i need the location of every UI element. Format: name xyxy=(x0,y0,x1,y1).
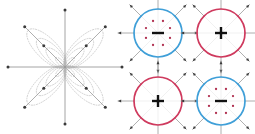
origin-cluster-dot xyxy=(67,64,68,65)
diagram-canvas xyxy=(0,0,255,134)
circle-bottom-right xyxy=(181,61,255,134)
origin-cluster-dot xyxy=(64,70,65,71)
inner-dot xyxy=(169,37,171,39)
inner-dot xyxy=(215,88,217,90)
origin-cluster-dot xyxy=(67,69,68,70)
axis-endpoint-marker xyxy=(64,123,67,126)
inner-dot xyxy=(152,20,154,22)
origin-cluster-dot xyxy=(70,66,71,67)
origin-cluster-dot xyxy=(58,73,59,74)
inner-dot xyxy=(145,27,147,29)
inner-dot xyxy=(225,112,227,114)
origin-cluster-dot xyxy=(61,66,62,67)
inner-dot xyxy=(215,112,217,114)
origin-cluster-dot xyxy=(57,66,58,67)
origin-cluster-dot xyxy=(68,70,69,71)
origin-cluster-dot xyxy=(64,57,65,58)
origin-cluster-dot xyxy=(64,63,65,64)
inner-dot xyxy=(162,20,164,22)
axis-endpoint-marker xyxy=(7,66,10,69)
spoke-arrowhead xyxy=(220,61,223,64)
origin-cluster-dot xyxy=(74,66,75,67)
inner-dot xyxy=(208,95,210,97)
origin-cluster-dot xyxy=(55,66,56,67)
axis-group xyxy=(7,9,124,126)
origin-cluster-dot xyxy=(59,61,60,62)
origin-cluster-dot xyxy=(70,72,71,73)
spoke-arrowhead xyxy=(157,61,160,64)
inner-dot xyxy=(208,105,210,107)
origin-cluster-dot xyxy=(71,60,72,61)
inner-dot xyxy=(225,88,227,90)
origin-cluster-dot xyxy=(66,66,67,67)
origin-cluster-dot xyxy=(66,65,67,66)
diagram-svg xyxy=(0,0,255,134)
inner-dot xyxy=(232,95,234,97)
inner-dot xyxy=(152,44,154,46)
axis-endpoint-marker xyxy=(121,66,124,69)
origin-cluster-dot xyxy=(64,61,65,62)
lobe-marker xyxy=(85,87,88,90)
axis-endpoint-marker xyxy=(104,106,107,109)
axis-endpoint-marker xyxy=(104,25,107,28)
origin-cluster-dot xyxy=(60,70,61,71)
spoke-arrowhead xyxy=(118,32,121,35)
origin-cluster-dot xyxy=(66,68,67,69)
origin-cluster-dot xyxy=(64,59,65,60)
origin-cluster-dot xyxy=(63,68,64,69)
lobe-marker xyxy=(85,44,88,47)
lobe-marker xyxy=(42,87,45,90)
axis-endpoint-marker xyxy=(23,25,26,28)
origin-cluster-dot xyxy=(64,74,65,75)
origin-cluster-dot xyxy=(58,60,59,61)
origin-cluster-dot xyxy=(64,65,65,66)
axis-endpoint-marker xyxy=(64,9,67,12)
lobe-marker xyxy=(42,44,45,47)
origin-cluster-dot xyxy=(60,62,61,63)
rose-panel xyxy=(7,9,124,126)
origin-cluster-dot xyxy=(68,62,69,63)
origin-cluster-dot xyxy=(59,72,60,73)
origin-cluster-dot xyxy=(70,61,71,62)
origin-cluster-dot xyxy=(72,66,73,67)
circle-bottom-left xyxy=(118,61,198,134)
origin-cluster-dot xyxy=(62,64,63,65)
circle-top-right xyxy=(181,0,255,73)
axis-endpoint-marker xyxy=(23,106,26,109)
origin-cluster-dot xyxy=(64,68,65,69)
origin-cluster-dot xyxy=(62,69,63,70)
origin-cluster-dot xyxy=(71,73,72,74)
inner-dot xyxy=(145,37,147,39)
origin-cluster-dot xyxy=(68,66,69,67)
spoke-arrowhead xyxy=(118,100,121,103)
origin-cluster-dot xyxy=(63,65,64,66)
origin-cluster-dot xyxy=(64,76,65,77)
inner-dot xyxy=(169,27,171,29)
origin-cluster-dot xyxy=(59,66,60,67)
origin-cluster-dot xyxy=(63,66,64,67)
inner-dot xyxy=(162,44,164,46)
inner-dot xyxy=(232,105,234,107)
origin-cluster-dot xyxy=(64,72,65,73)
